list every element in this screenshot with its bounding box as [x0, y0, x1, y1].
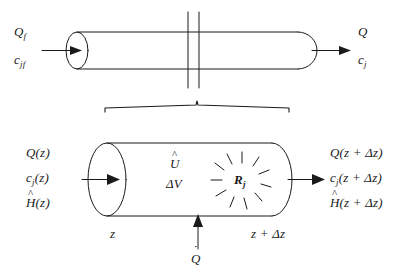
- top-outlet-concentration-label: cj: [358, 53, 367, 66]
- cv-inlet-enthalpy-label: ^H(z): [26, 196, 50, 209]
- heat-input-label: ˙Q: [191, 252, 201, 265]
- top-outlet-arrow-head: [339, 46, 351, 55]
- cv-inlet-arrow-head: [107, 174, 120, 185]
- cv-outlet-concentration-label: cj(z + Δz): [330, 171, 382, 184]
- hat-accent-icon-outlet: ^: [330, 188, 340, 199]
- top-inlet-flow-label: Qf: [14, 25, 26, 38]
- hat-accent-icon-energy: ^: [170, 149, 180, 160]
- expansion-brace-path: [105, 101, 289, 112]
- figure-linework: [0, 0, 397, 274]
- reactor-control-volume-figure: Qf cjf Q cj Q(z) cj(z) ^H(z) Q(z + Δz) c…: [0, 0, 397, 274]
- hat-accent-icon: ^: [26, 188, 36, 199]
- top-inlet-arrow-head: [70, 46, 82, 55]
- axis-left-position-label: z: [110, 227, 115, 240]
- internal-energy-label: ^U: [170, 157, 180, 170]
- cv-outlet-arrow-head: [312, 174, 325, 185]
- top-outlet-flow-label: Q: [358, 25, 368, 38]
- cv-outlet-enthalpy-label: ^H(z + Δz): [330, 196, 383, 209]
- axis-right-position-label: z + Δz: [251, 227, 285, 240]
- reaction-rate-label: Rj: [234, 173, 246, 186]
- cv-inlet-concentration-label: cj(z): [26, 171, 49, 184]
- volume-element-label: ΔV: [166, 177, 182, 190]
- cv-inlet-flow-label: Q(z): [26, 146, 50, 159]
- cv-outlet-flow-label: Q(z + Δz): [330, 146, 383, 159]
- top-inlet-concentration-label: cjf: [14, 53, 25, 66]
- dot-accent-icon: ˙: [191, 243, 201, 256]
